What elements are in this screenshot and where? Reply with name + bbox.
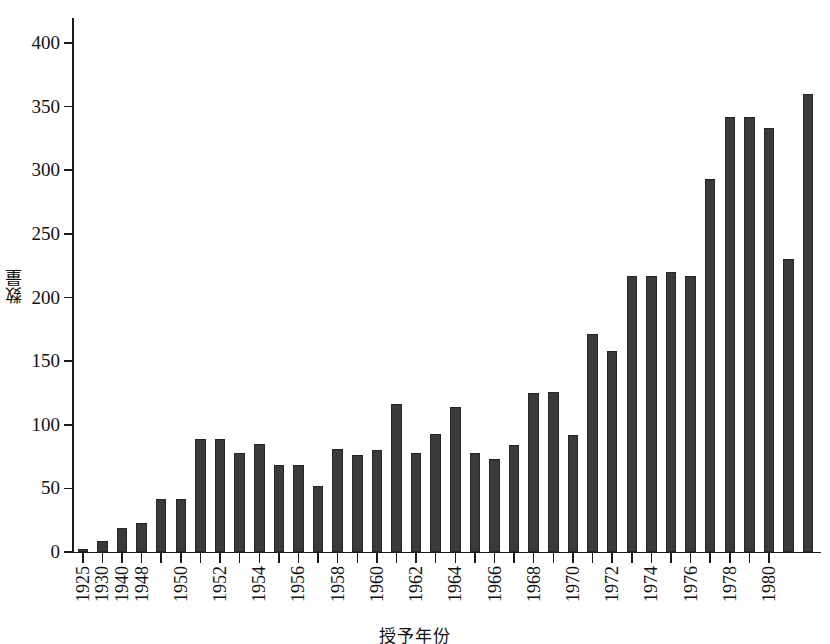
x-axis-tick (749, 553, 751, 563)
bar (666, 272, 677, 552)
bar (528, 393, 539, 552)
x-axis-tick (180, 553, 182, 563)
bar (764, 128, 775, 552)
x-axis-tick-label: 1956 (289, 566, 307, 602)
bar (725, 117, 736, 552)
bar (254, 444, 265, 552)
bar (274, 465, 285, 552)
x-axis-tick-label: 1972 (603, 566, 621, 602)
y-axis-tick (64, 297, 73, 299)
bar (215, 439, 226, 552)
x-axis-title: 授予年份 (0, 622, 830, 644)
y-axis-tick (64, 42, 73, 44)
x-axis-tick (729, 553, 731, 563)
x-axis-tick (141, 553, 143, 563)
x-axis-tick (474, 553, 476, 563)
bar (430, 434, 441, 552)
bar (548, 392, 559, 552)
x-axis-tick (357, 553, 359, 563)
x-axis-tick (415, 553, 417, 563)
x-axis-tick-label: 1964 (446, 566, 464, 602)
x-axis-tick-label: 1950 (172, 566, 190, 602)
x-axis-tick-label: 1968 (525, 566, 543, 602)
x-axis-tick-label: 1954 (250, 566, 268, 602)
x-axis-tick (768, 553, 770, 563)
bar (803, 94, 814, 552)
x-axis-tick-label: 1925 (74, 566, 92, 602)
bar (332, 449, 343, 552)
x-axis-tick (651, 553, 653, 563)
y-axis-line (72, 18, 74, 553)
y-axis-tick (64, 106, 73, 108)
y-axis-tick-label: 400 (2, 33, 60, 52)
bar (646, 276, 657, 552)
bar (372, 450, 383, 552)
x-axis-tick-label: 1940 (113, 566, 131, 602)
x-axis-tick (572, 553, 574, 563)
bar-chart: 数量 050100150200250300350400 192519301940… (0, 0, 830, 644)
x-axis-tick-label: 1960 (368, 566, 386, 602)
bar (195, 439, 206, 552)
x-axis-tick (239, 553, 241, 563)
bar (234, 453, 245, 552)
x-axis-tick (631, 553, 633, 563)
bar (744, 117, 755, 552)
x-axis-tick (592, 553, 594, 563)
bar (607, 351, 618, 552)
bar (627, 276, 638, 552)
bar (587, 334, 598, 552)
x-axis-tick (553, 553, 555, 563)
x-axis-tick (337, 553, 339, 563)
x-axis-tick (121, 553, 123, 563)
x-axis-tick (611, 553, 613, 563)
x-axis-tick (317, 553, 319, 563)
x-axis-tick-label: 1958 (329, 566, 347, 602)
x-axis-tick (200, 553, 202, 563)
x-axis-tick-label: 1966 (486, 566, 504, 602)
x-axis-tick-label: 1952 (211, 566, 229, 602)
bar (313, 486, 324, 552)
x-axis-tick (690, 553, 692, 563)
bar (352, 455, 363, 552)
y-axis-tick (64, 424, 73, 426)
bar (156, 499, 167, 552)
x-axis-tick (102, 553, 104, 563)
x-axis-tick (494, 553, 496, 563)
y-axis-tick-label: 0 (2, 542, 60, 561)
y-axis-tick-label: 300 (2, 160, 60, 179)
x-axis-tick (435, 553, 437, 563)
bar (509, 445, 520, 552)
bar (136, 523, 147, 552)
bar (293, 465, 304, 552)
x-axis-tick (160, 553, 162, 563)
x-axis-tick (82, 553, 84, 563)
x-axis-tick (278, 553, 280, 563)
x-axis-tick (259, 553, 261, 563)
x-axis-tick-label: 1930 (93, 566, 111, 602)
bar (117, 528, 128, 552)
x-axis-tick (219, 553, 221, 563)
x-axis-tick (376, 553, 378, 563)
y-axis-tick (64, 488, 73, 490)
bar (568, 435, 579, 552)
bar (411, 453, 422, 552)
y-axis-tick-label: 250 (2, 224, 60, 243)
bar (97, 541, 108, 552)
x-axis-tick (396, 553, 398, 563)
bar (450, 407, 461, 552)
bar (176, 499, 187, 552)
y-axis-tick (64, 169, 73, 171)
x-axis-tick-label: 1976 (682, 566, 700, 602)
x-axis-tick-label: 1974 (642, 566, 660, 602)
bar (470, 453, 481, 552)
x-axis-tick (298, 553, 300, 563)
x-axis-tick-label: 1978 (721, 566, 739, 602)
y-axis-tick (64, 233, 73, 235)
x-axis-tick-label: 1970 (564, 566, 582, 602)
x-axis-tick-label: 1962 (407, 566, 425, 602)
bar (705, 179, 716, 552)
bar (783, 259, 794, 552)
bar (391, 404, 402, 552)
y-axis-tick-label: 350 (2, 97, 60, 116)
bar (489, 459, 500, 552)
